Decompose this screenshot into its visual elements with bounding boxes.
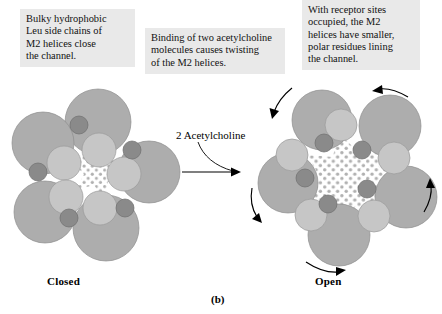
receptor-diagram	[0, 0, 442, 314]
open-polar-residue-1	[315, 134, 333, 152]
closed-leu-residue-4	[60, 209, 78, 227]
closed-m2-helix-top	[82, 133, 116, 167]
open-polar-residue-3	[358, 180, 376, 198]
rotation-arrow-head-icon	[372, 85, 383, 94]
open-m2-helix-left	[276, 139, 308, 171]
open-m2-helix-lower-right	[358, 200, 390, 232]
closed-m2-helix-lower-left	[49, 180, 83, 214]
state-label-closed: Closed	[47, 275, 80, 287]
closed-leu-residue-5	[29, 163, 47, 181]
closed-m2-helix-bottom	[83, 191, 117, 225]
curved-rotation-arrow-icon	[274, 88, 292, 112]
closed-m2-helix-upper-left	[47, 146, 81, 180]
open-m2-helix-right	[378, 142, 410, 174]
rotation-arrow-head-icon	[252, 213, 262, 223]
open-polar-residue-4	[319, 195, 337, 213]
open-state-structure	[251, 85, 437, 276]
closed-leu-residue-2	[123, 141, 141, 159]
curved-rotation-arrow-icon	[251, 188, 257, 217]
closed-state-structure	[12, 89, 180, 261]
state-label-open: Open	[315, 275, 341, 287]
open-polar-residue-2	[353, 141, 371, 159]
acetylcholine-transition-label: 2 Acetylcholine	[176, 129, 245, 141]
panel-label: (b)	[211, 293, 224, 305]
open-polar-residue-5	[296, 169, 314, 187]
transition-arrow-group	[182, 142, 241, 176]
rotation-arrow-head-icon	[270, 108, 280, 119]
rotation-arrow-top-left	[270, 88, 293, 119]
right-arrow-head-icon	[231, 168, 241, 177]
leader-line-icon	[198, 142, 233, 171]
closed-m2-helix-right	[107, 157, 141, 191]
closed-leu-residue-3	[116, 199, 134, 217]
figure-canvas: Bulky hydrophobic Leu side chains of M2 …	[0, 0, 442, 314]
closed-leu-residue-1	[70, 116, 88, 134]
